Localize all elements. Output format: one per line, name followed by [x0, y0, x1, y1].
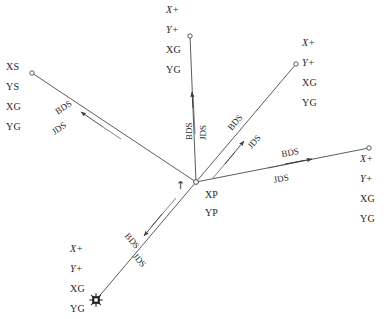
ray-top-line: [190, 36, 196, 182]
ray-top-jds-label: JDS: [199, 125, 208, 140]
label-yg: YG: [360, 214, 375, 224]
ray-top[interactable]: [188, 34, 196, 182]
label-xg: XG: [166, 45, 181, 55]
label-group-ray-right: X+ Y+ XG YG: [360, 154, 375, 224]
label-xs: XS: [6, 62, 21, 72]
diagram-vector-layer: [0, 0, 387, 319]
label-group-ray-top: X+ Y+ XG YG: [166, 5, 181, 75]
ray-upper-left-endpoint[interactable]: [30, 71, 34, 75]
label-xg: XG: [70, 284, 85, 294]
label-y-plus: Y+: [166, 25, 181, 35]
ray-top-bds-label: BDS: [185, 122, 194, 140]
label-yg: YG: [70, 304, 85, 314]
label-y-plus: Y+: [360, 174, 375, 184]
ray-upper-right-endpoint[interactable]: [294, 62, 298, 66]
ray-lower-left[interactable]: [89, 182, 196, 307]
ray-lower-left-line: [96, 182, 196, 300]
ray-lower-left-endpoint[interactable]: [89, 293, 103, 307]
label-xp: XP: [205, 190, 218, 200]
ray-upper-left-arrow: [81, 112, 103, 127]
ray-upper-right-line: [196, 64, 296, 182]
ray-top-endpoint[interactable]: [188, 34, 192, 38]
label-x-plus: X+: [166, 5, 181, 15]
ray-right-arrow: [285, 159, 312, 164]
label-ys: YS: [6, 82, 21, 92]
label-xg: XG: [302, 78, 317, 88]
ray-upper-left-inner-line: [103, 127, 121, 139]
label-yp: YP: [205, 208, 218, 218]
diagram-canvas: XS YS XG YG X+ Y+ XG YG X+ Y+ XG YG X+ Y…: [0, 0, 387, 319]
ray-right-endpoint[interactable]: [367, 146, 371, 150]
center-up-arrow-icon: ↑: [176, 180, 185, 191]
label-yg: YG: [166, 65, 181, 75]
label-x-plus: X+: [302, 38, 317, 48]
label-group-ray-lower-left: X+ Y+ XG YG: [70, 244, 85, 314]
label-y-plus: Y+: [70, 264, 85, 274]
label-y-plus: Y+: [302, 58, 317, 68]
label-x-plus: X+: [360, 154, 375, 164]
center-node-marker[interactable]: [194, 180, 199, 185]
label-xg: XG: [360, 194, 375, 204]
label-yg: YG: [302, 98, 317, 108]
label-x-plus: X+: [70, 244, 85, 254]
label-xg: XG: [6, 102, 21, 112]
label-yg: YG: [6, 122, 21, 132]
label-group-ray-upper-right: X+ Y+ XG YG: [302, 38, 317, 108]
label-group-ray-upper-left: XS YS XG YG: [6, 62, 21, 132]
ray-upper-right[interactable]: [196, 62, 298, 182]
